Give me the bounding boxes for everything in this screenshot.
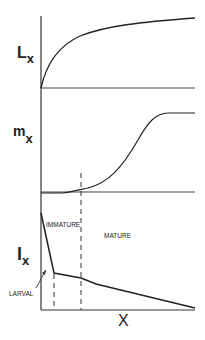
Lx-curve xyxy=(41,18,195,88)
lx-label: lx xyxy=(17,244,30,268)
mature-label: MATURE xyxy=(104,232,132,239)
mx-curve xyxy=(41,113,195,193)
Lx-label: Lx xyxy=(17,44,35,66)
life-history-diagram: Lx mx lx IMMATURE MATURE LARVAL X xyxy=(0,0,205,340)
immature-label: IMMATURE xyxy=(46,221,81,228)
mx-label: mx xyxy=(13,123,33,146)
larval-label: LARVAL xyxy=(9,290,34,297)
larval-arrowhead-icon xyxy=(42,270,46,275)
x-axis-label: X xyxy=(118,312,129,329)
